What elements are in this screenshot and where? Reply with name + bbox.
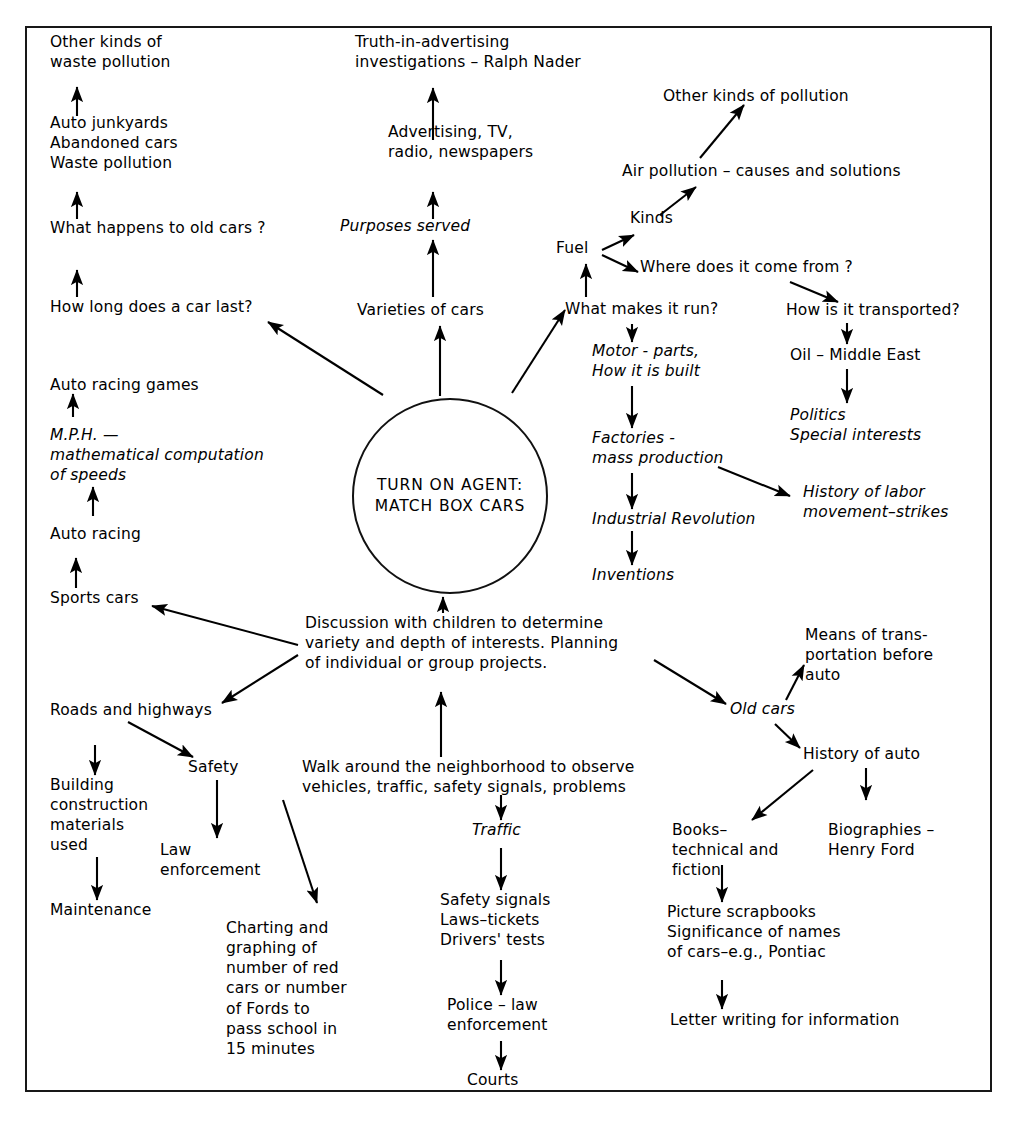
node-motor-parts[interactable]: Motor - parts, How it is built bbox=[592, 341, 700, 381]
node-history-of-labor-movement[interactable]: History of labor movement–strikes bbox=[803, 482, 948, 522]
node-what-makes-it-run[interactable]: What makes it run? bbox=[565, 299, 718, 319]
node-police-law-enforcement[interactable]: Police – law enforcement bbox=[447, 995, 548, 1035]
node-varieties-of-cars[interactable]: Varieties of cars bbox=[357, 300, 484, 320]
node-where-does-it-come-from[interactable]: Where does it come from ? bbox=[640, 257, 853, 277]
node-auto-junkyards[interactable]: Auto junkyards Abandoned cars Waste poll… bbox=[50, 113, 178, 173]
node-traffic[interactable]: Traffic bbox=[472, 820, 521, 840]
node-auto-racing-games[interactable]: Auto racing games bbox=[50, 375, 199, 395]
node-mph-mathematical-computation[interactable]: M.P.H. — mathematical computation of spe… bbox=[50, 425, 264, 485]
node-safety-signals-laws-tickets[interactable]: Safety signals Laws–tickets Drivers' tes… bbox=[440, 890, 551, 950]
node-advertising-tv-radio[interactable]: Advertising, TV, radio, newspapers bbox=[388, 122, 533, 162]
node-maintenance[interactable]: Maintenance bbox=[50, 900, 151, 920]
node-walk-around-neighborhood[interactable]: Walk around the neighborhood to observe … bbox=[302, 757, 635, 797]
node-old-cars[interactable]: Old cars bbox=[730, 699, 795, 719]
node-oil-middle-east[interactable]: Oil – Middle East bbox=[790, 345, 921, 365]
node-books-technical-and-fiction[interactable]: Books– technical and fiction bbox=[672, 820, 778, 880]
node-how-is-it-transported[interactable]: How is it transported? bbox=[786, 300, 960, 320]
node-fuel[interactable]: Fuel bbox=[556, 238, 588, 258]
node-factories-mass-production[interactable]: Factories - mass production bbox=[592, 428, 724, 468]
node-sports-cars[interactable]: Sports cars bbox=[50, 588, 139, 608]
node-biographies-henry-ford[interactable]: Biographies – Henry Ford bbox=[828, 820, 934, 860]
node-discussion-with-children[interactable]: Discussion with children to determine va… bbox=[305, 613, 618, 673]
central-node-label: TURN ON AGENT: MATCH BOX CARS bbox=[375, 475, 526, 518]
node-history-of-auto[interactable]: History of auto bbox=[803, 744, 920, 764]
concept-map-page: TURN ON AGENT: MATCH BOX CARS Other kind… bbox=[0, 0, 1018, 1140]
node-charting-and-graphing[interactable]: Charting and graphing of number of red c… bbox=[226, 918, 347, 1059]
node-politics-special-interests[interactable]: Politics Special interests bbox=[790, 405, 921, 445]
node-law-enforcement[interactable]: Law enforcement bbox=[160, 840, 261, 880]
node-other-kinds-waste-pollution[interactable]: Other kinds of waste pollution bbox=[50, 32, 171, 72]
node-inventions[interactable]: Inventions bbox=[592, 565, 674, 585]
node-air-pollution-causes-solutions[interactable]: Air pollution – causes and solutions bbox=[622, 161, 901, 181]
node-auto-racing[interactable]: Auto racing bbox=[50, 524, 141, 544]
node-industrial-revolution[interactable]: Industrial Revolution bbox=[592, 509, 756, 529]
node-building-construction-materials[interactable]: Building construction materials used bbox=[50, 775, 148, 856]
node-truth-in-advertising[interactable]: Truth-in-advertising investigations – Ra… bbox=[355, 32, 581, 72]
node-other-kinds-of-pollution[interactable]: Other kinds of pollution bbox=[663, 86, 849, 106]
node-picture-scrapbooks[interactable]: Picture scrapbooks Significance of names… bbox=[667, 902, 841, 962]
central-node-circle[interactable]: TURN ON AGENT: MATCH BOX CARS bbox=[352, 398, 548, 594]
node-courts[interactable]: Courts bbox=[467, 1070, 519, 1090]
node-safety[interactable]: Safety bbox=[188, 757, 238, 777]
node-letter-writing-for-information[interactable]: Letter writing for information bbox=[670, 1010, 899, 1030]
node-purposes-served[interactable]: Purposes served bbox=[340, 216, 470, 236]
node-kinds[interactable]: Kinds bbox=[630, 208, 673, 228]
node-how-long-does-a-car-last[interactable]: How long does a car last? bbox=[50, 297, 253, 317]
node-what-happens-to-old-cars[interactable]: What happens to old cars ? bbox=[50, 218, 266, 238]
node-roads-and-highways[interactable]: Roads and highways bbox=[50, 700, 212, 720]
node-means-of-transportation[interactable]: Means of trans- portation before auto bbox=[805, 625, 933, 685]
